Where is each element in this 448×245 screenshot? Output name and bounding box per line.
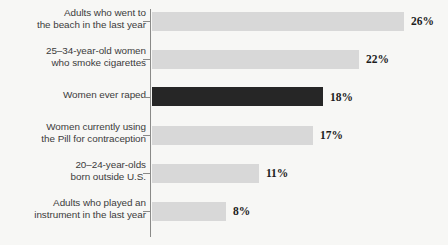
- bar-value-label: 26%: [411, 15, 434, 27]
- bar-highlighted: [152, 87, 323, 106]
- axis-tick: [143, 21, 151, 22]
- bar-value-label: 11%: [266, 167, 288, 179]
- bar-value-label: 22%: [366, 53, 389, 65]
- bar-row: Adults who went to the beach in the last…: [0, 6, 448, 40]
- bar: [152, 126, 313, 145]
- axis-tick: [143, 173, 151, 174]
- bar: [152, 12, 404, 31]
- category-label: Adults who played an instrument in the l…: [0, 197, 146, 220]
- bar-row: Women currently using the Pill for contr…: [0, 120, 448, 154]
- category-label: 25–34-year-old women who smoke cigarette…: [0, 45, 146, 68]
- bar: [152, 202, 226, 221]
- category-label: 20–24-year-olds born outside U.S.: [0, 159, 146, 182]
- bar: [152, 164, 259, 183]
- axis-tick: [143, 97, 151, 98]
- category-label: Women currently using the Pill for contr…: [0, 121, 146, 144]
- bar-row: Adults who played an instrument in the l…: [0, 196, 448, 230]
- bar-row: 20–24-year-olds born outside U.S. 11%: [0, 158, 448, 192]
- bar-value-label: 8%: [233, 205, 250, 217]
- bar-row-highlighted: Women ever raped 18%: [0, 82, 448, 116]
- category-label: Women ever raped: [0, 89, 146, 101]
- bar: [152, 50, 359, 69]
- axis-tick: [143, 211, 151, 212]
- category-label: Adults who went to the beach in the last…: [0, 7, 146, 30]
- bar-value-label: 17%: [320, 129, 343, 141]
- bar-value-label: 18%: [330, 91, 353, 103]
- axis-tick: [143, 59, 151, 60]
- axis-tick: [143, 135, 151, 136]
- bar-row: 25–34-year-old women who smoke cigarette…: [0, 44, 448, 78]
- horizontal-bar-chart: Adults who went to the beach in the last…: [0, 0, 448, 245]
